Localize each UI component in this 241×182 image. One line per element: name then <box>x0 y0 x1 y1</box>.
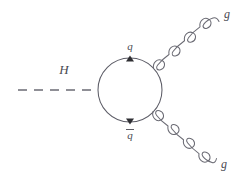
gluon-top-coil <box>153 18 219 70</box>
gluon-bottom-label: g <box>221 157 227 171</box>
gluon-top-label: g <box>224 7 230 21</box>
quark-label: q <box>127 40 133 52</box>
feynman-diagram-svg: H q q g g <box>0 0 241 182</box>
feynman-diagram-canvas: H q q g g <box>0 0 241 182</box>
antiquark-label: q <box>127 129 133 141</box>
higgs-label: H <box>58 62 69 77</box>
gluon-bottom-coil <box>153 111 217 163</box>
